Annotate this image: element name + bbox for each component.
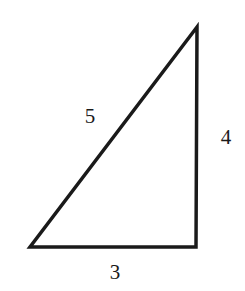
triangle-svg [0, 0, 245, 291]
hypotenuse-label: 5 [85, 106, 96, 127]
vertical-leg-label: 4 [221, 127, 232, 148]
horizontal-leg-label: 3 [110, 262, 121, 283]
triangle-diagram: 5 4 3 [0, 0, 245, 291]
right-triangle-shape [30, 27, 197, 247]
